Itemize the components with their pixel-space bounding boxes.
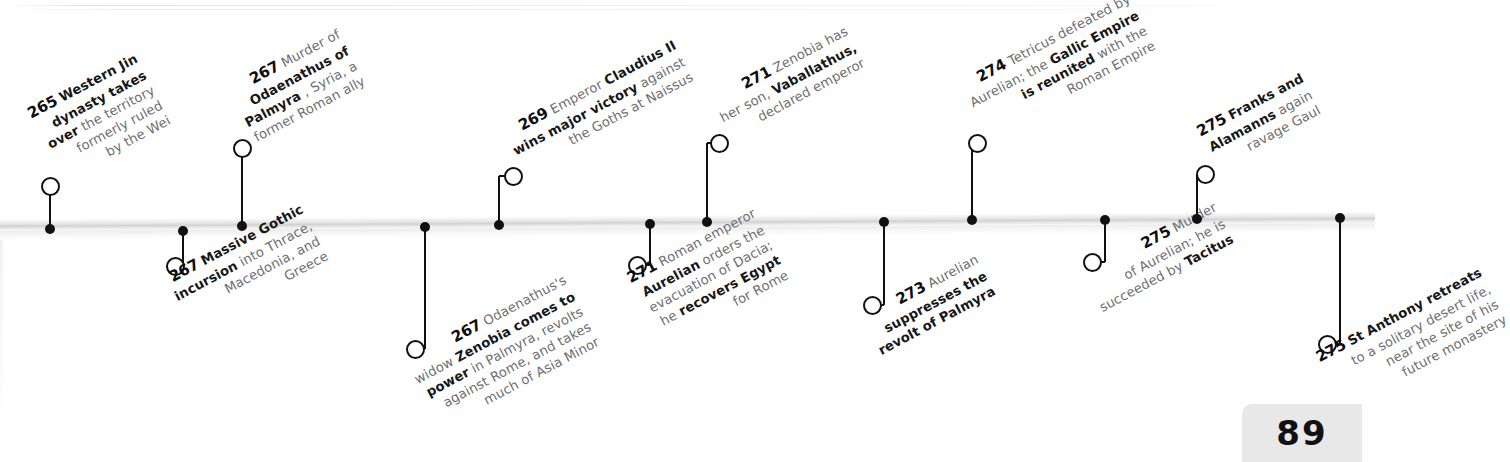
event-axis-dot[interactable] [879, 217, 889, 227]
event-caption: 267 Murder of Odaenathus of Palmyra , Sy… [225, 25, 369, 146]
event-node-circle[interactable] [41, 177, 60, 196]
event-leader-line [241, 148, 244, 226]
event-caption: 267 Odaenathus's widow Zenobia comes to … [402, 271, 602, 433]
event-axis-dot[interactable] [967, 215, 977, 225]
event-leader-line [498, 176, 501, 225]
event-caption: 269 Emperor Claudius II wins major victo… [501, 36, 696, 174]
event-leader-line [706, 143, 709, 222]
event-node-circle[interactable] [710, 134, 729, 153]
event-axis-dot[interactable] [237, 221, 247, 231]
event-node-circle[interactable] [233, 139, 252, 158]
event-leader-line [883, 222, 886, 305]
event-node-circle[interactable] [968, 134, 987, 153]
event-caption: 273 Aurelian suppresses the revolt of Pa… [858, 250, 998, 359]
event-caption: 275 St Anthony retreats to a solitary de… [1313, 263, 1510, 413]
event-node-circle[interactable] [1196, 165, 1215, 184]
event-axis-dot[interactable] [45, 224, 55, 234]
event-caption: 271 Zenobia has her son, Vaballathus, de… [708, 22, 868, 141]
event-caption: 275 Franks and Alamanns again ravage Gau… [1194, 69, 1324, 172]
event-axis-dot[interactable] [178, 226, 188, 236]
event-leader-line [1339, 218, 1342, 344]
event-leader-line [971, 143, 974, 220]
event-axis-dot[interactable] [1100, 215, 1110, 225]
page-number: 89 [1276, 413, 1327, 453]
event-axis-dot[interactable] [702, 217, 712, 227]
event-node-circle[interactable] [504, 167, 523, 186]
event-axis-dot[interactable] [420, 222, 430, 232]
event-axis-dot[interactable] [1192, 214, 1202, 224]
event-axis-dot[interactable] [494, 220, 504, 230]
event-axis-dot[interactable] [1335, 213, 1345, 223]
scan-artifact-top-line-1 [0, 5, 1362, 6]
event-caption: 265 Western Jin dynasty takes over the t… [25, 49, 174, 184]
event-leader-line [424, 227, 427, 349]
event-axis-dot[interactable] [645, 219, 655, 229]
event-caption: 274 Tetricus defeated by Aurelian; the G… [958, 0, 1159, 141]
page-number-plate: 89 [1242, 404, 1362, 462]
scan-artifact-top-line-2 [0, 9, 1362, 10]
scan-artifact-left-edge [0, 238, 3, 438]
